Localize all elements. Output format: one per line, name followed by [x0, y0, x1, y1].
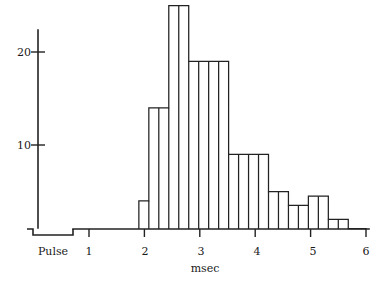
pulse-marker-notch — [27, 229, 73, 235]
histogram-bars — [139, 6, 366, 230]
x-tick-group — [89, 229, 366, 237]
y-tick-label-10: 10 — [17, 139, 31, 152]
x-tick-label-4: 4 — [254, 245, 261, 258]
x-tick-label-3: 3 — [198, 245, 205, 258]
x-axis-title: msec — [191, 262, 220, 275]
histogram-outline — [139, 6, 366, 230]
x-tick-label-6: 6 — [363, 245, 370, 258]
y-tick-label-20: 20 — [17, 46, 31, 59]
histogram-plot: 20 10 1 2 3 4 5 6 Pulse msec — [0, 0, 375, 285]
x-tick-label-1: 1 — [86, 245, 93, 258]
x-tick-label-5: 5 — [310, 245, 317, 258]
x-tick-label-2: 2 — [142, 245, 149, 258]
histogram-figure: 20 10 1 2 3 4 5 6 Pulse msec — [0, 0, 375, 285]
pulse-marker-label: Pulse — [38, 245, 68, 258]
